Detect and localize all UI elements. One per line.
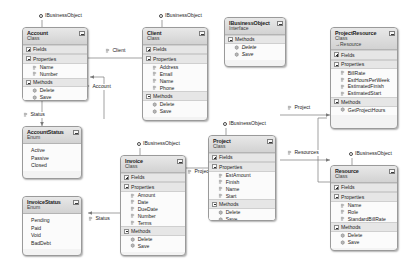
method-row[interactable]: Delete — [209, 209, 275, 216]
method-row[interactable]: Save — [121, 243, 185, 250]
compartment-fields[interactable]: Fields — [121, 173, 185, 183]
property-row[interactable]: Name — [331, 202, 397, 209]
expander-minus-icon[interactable] — [124, 229, 129, 234]
enum-value-row[interactable]: Pending — [23, 217, 81, 225]
property-row[interactable]: Terms — [121, 219, 185, 226]
property-row[interactable]: Amount — [121, 192, 185, 199]
property-row[interactable]: Email — [143, 71, 207, 78]
compartment-fields[interactable]: Fields — [23, 45, 87, 55]
expander-minus-icon[interactable] — [146, 94, 151, 99]
class-diagram-canvas[interactable]: IBusinessObject IBusinessObject IBusines… — [0, 0, 401, 267]
expander-minus-icon[interactable] — [334, 62, 339, 67]
method-row[interactable]: Save — [331, 239, 397, 246]
property-row[interactable]: Number — [23, 71, 87, 78]
expander-minus-icon[interactable] — [26, 80, 31, 85]
method-row[interactable]: Delete — [121, 236, 185, 243]
expander-minus-icon[interactable] — [212, 202, 217, 207]
expander-plus-icon[interactable] — [26, 47, 31, 52]
property-row[interactable]: Name — [143, 78, 207, 85]
compartment-properties[interactable]: Properties — [209, 162, 275, 172]
compartment-fields[interactable]: Fields — [331, 183, 397, 193]
compartment-properties[interactable]: Properties — [143, 54, 207, 64]
enum-shape-invoice-status[interactable]: InvoiceStatus Enum Pending Paid Void Bad… — [22, 196, 82, 256]
enum-value-row[interactable]: Paid — [23, 224, 81, 232]
property-row[interactable]: Address — [143, 64, 207, 71]
class-shape-client[interactable]: Client Class Fields Properties Address E… — [142, 27, 208, 121]
expander-plus-icon[interactable] — [334, 52, 339, 57]
expander-plus-icon[interactable] — [334, 185, 339, 190]
expander-minus-icon[interactable] — [334, 194, 339, 199]
expander-minus-icon[interactable] — [26, 56, 31, 61]
property-row[interactable]: Start — [209, 192, 275, 199]
class-header[interactable]: ProjectResource Class →Resource — [331, 28, 397, 50]
property-row[interactable]: BillRate — [331, 69, 397, 76]
method-row[interactable]: Save — [225, 51, 285, 58]
property-row[interactable]: EstimatedFinish — [331, 83, 397, 90]
property-row[interactable]: Number — [121, 212, 185, 219]
property-row[interactable]: Name — [23, 64, 87, 71]
method-row[interactable]: Save — [23, 94, 87, 101]
collapse-toggle-icon[interactable] — [73, 200, 78, 205]
expander-minus-icon[interactable] — [334, 99, 339, 104]
expander-minus-icon[interactable] — [212, 164, 217, 169]
enum-value-row[interactable]: Void — [23, 232, 81, 240]
property-row[interactable]: Role — [331, 209, 397, 216]
property-row[interactable]: EstimatedStart — [331, 90, 397, 97]
class-shape-account[interactable]: Account Class Fields Properties Name Num… — [22, 27, 88, 101]
compartment-methods[interactable]: Methods — [143, 91, 207, 101]
collapse-toggle-icon[interactable] — [277, 21, 282, 26]
interface-shape-ibusinessobject[interactable]: IBusinessObject Interface Methods Delete… — [224, 17, 286, 67]
method-row[interactable]: Save — [209, 216, 275, 221]
class-header[interactable]: Client Class — [143, 28, 207, 45]
method-row[interactable]: GetProjectHours — [331, 107, 397, 114]
expander-minus-icon[interactable] — [228, 37, 233, 42]
collapse-toggle-icon[interactable] — [73, 130, 78, 135]
class-shape-project-resource[interactable]: ProjectResource Class →Resource Fields P… — [330, 27, 398, 129]
class-header[interactable]: Invoice Class — [121, 156, 185, 173]
class-header[interactable]: Resource Class — [331, 166, 397, 183]
property-row[interactable]: DueDate — [121, 206, 185, 213]
collapse-toggle-icon[interactable] — [267, 139, 272, 144]
property-row[interactable]: StandardBillRate — [331, 216, 397, 223]
compartment-fields[interactable]: Fields — [143, 45, 207, 55]
method-row[interactable]: Save — [143, 108, 207, 115]
compartment-methods[interactable]: Methods — [331, 97, 397, 107]
class-shape-invoice[interactable]: Invoice Class Fields Properties Amount D… — [120, 155, 186, 256]
compartment-fields[interactable]: Fields — [331, 50, 397, 60]
method-row[interactable]: Delete — [331, 232, 397, 239]
compartment-properties[interactable]: Properties — [331, 60, 397, 70]
expander-plus-icon[interactable] — [146, 47, 151, 52]
compartment-methods[interactable]: Methods — [23, 78, 87, 88]
interface-header[interactable]: IBusinessObject Interface — [225, 18, 285, 35]
collapse-toggle-icon[interactable] — [199, 31, 204, 36]
expander-minus-icon[interactable] — [334, 225, 339, 230]
compartment-methods[interactable]: Methods — [121, 226, 185, 236]
compartment-methods[interactable]: Methods — [331, 222, 397, 232]
property-row[interactable]: Name — [209, 186, 275, 193]
enum-header[interactable]: InvoiceStatus Enum — [23, 197, 81, 214]
class-header[interactable]: Account Class — [23, 28, 87, 45]
class-shape-project[interactable]: Project Class Fields Properties EstAmoun… — [208, 135, 276, 221]
enum-value-row[interactable]: Active — [23, 147, 81, 155]
expander-plus-icon[interactable] — [124, 175, 129, 180]
property-row[interactable]: Phone — [143, 84, 207, 91]
method-row[interactable]: Delete — [143, 101, 207, 108]
enum-shape-account-status[interactable]: AccountStatus Enum Active Passive Closed — [22, 126, 82, 179]
class-shape-resource[interactable]: Resource Class Fields Properties Name Ro… — [330, 165, 398, 251]
property-row[interactable]: EstAmount — [209, 172, 275, 179]
compartment-methods[interactable]: Methods — [225, 35, 285, 45]
enum-value-row[interactable]: Passive — [23, 154, 81, 162]
method-row[interactable]: Delete — [23, 87, 87, 94]
collapse-toggle-icon[interactable] — [389, 169, 394, 174]
expander-plus-icon[interactable] — [212, 155, 217, 160]
compartment-properties[interactable]: Properties — [331, 192, 397, 202]
collapse-toggle-icon[interactable] — [389, 31, 394, 36]
property-row[interactable]: Finish — [209, 179, 275, 186]
property-row[interactable]: EstHoursPerWeek — [331, 76, 397, 83]
class-header[interactable]: Project Class — [209, 136, 275, 153]
expander-minus-icon[interactable] — [124, 184, 129, 189]
compartment-methods[interactable]: Methods — [209, 199, 275, 209]
enum-header[interactable]: AccountStatus Enum — [23, 127, 81, 144]
compartment-properties[interactable]: Properties — [121, 182, 185, 192]
collapse-toggle-icon[interactable] — [177, 159, 182, 164]
